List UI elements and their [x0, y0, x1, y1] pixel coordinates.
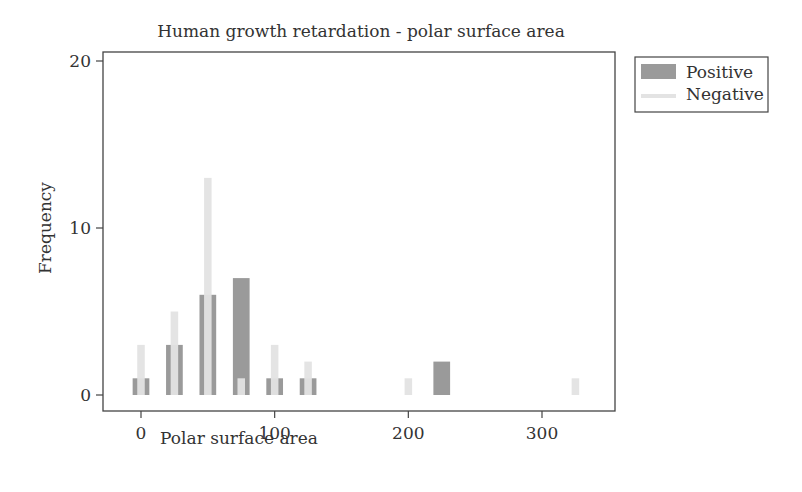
bar-negative: [204, 178, 212, 395]
legend: Positive Negative: [635, 57, 768, 112]
legend-swatch-negative: [641, 94, 676, 98]
y-tick-label: 0: [80, 385, 91, 405]
plot-area: [103, 52, 615, 411]
bar-positive: [433, 362, 450, 395]
bar-negative: [572, 378, 580, 395]
bars-group: [133, 178, 580, 395]
chart-title: Human growth retardation - polar surface…: [157, 21, 565, 41]
y-axis-label: Frequency: [35, 182, 55, 274]
y-axis: 01020: [69, 51, 103, 405]
legend-label-positive: Positive: [686, 62, 753, 82]
bar-negative: [171, 312, 179, 396]
bar-negative: [405, 378, 413, 395]
bar-negative: [304, 362, 312, 395]
x-axis-label: Polar surface area: [160, 428, 318, 448]
legend-swatch-positive: [641, 64, 676, 79]
x-tick-label: 200: [392, 423, 424, 443]
y-tick-label: 10: [69, 218, 91, 238]
x-tick-label: 300: [526, 423, 558, 443]
histogram-chart: Human growth retardation - polar surface…: [0, 0, 802, 492]
y-tick-label: 20: [69, 51, 91, 71]
x-tick-label: 0: [136, 423, 147, 443]
bar-positive: [233, 278, 250, 395]
bar-negative: [237, 378, 245, 395]
legend-label-negative: Negative: [686, 84, 764, 104]
bar-negative: [271, 345, 279, 395]
bar-negative: [137, 345, 145, 395]
